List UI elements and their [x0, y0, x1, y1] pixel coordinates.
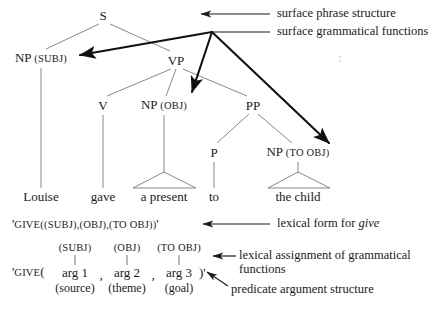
- pas-role-goal: (goal): [165, 282, 194, 294]
- pas-separator-2: ,: [151, 268, 154, 281]
- node-label: S: [99, 8, 106, 23]
- tree-node-np-to-obj: NP (TO OBJ): [266, 145, 329, 159]
- argument-mapping-stems: [75, 255, 179, 265]
- terminal-word-louise: Louise: [23, 190, 58, 203]
- node-label: NP: [266, 144, 282, 159]
- annotation-lexical-form: lexical form for give: [277, 217, 379, 231]
- annotation-lexical-assignment-line2: functions: [239, 261, 286, 275]
- tree-node-p: P: [210, 146, 217, 159]
- annotation-predicate-argument-structure: predicate argument structure: [231, 283, 374, 297]
- pas-predicate-close: )': [199, 266, 206, 279]
- lexical-form-arguments: ((SUBJ),(OBJ),(TO OBJ)): [40, 219, 156, 230]
- pas-role-theme: (theme): [108, 282, 145, 294]
- terminal-word-gave: gave: [91, 190, 116, 203]
- pas-separator-1: ,: [99, 268, 102, 281]
- grammatical-function-arrows: [80, 32, 329, 143]
- tree-node-pp: PP: [246, 99, 260, 112]
- pas-predicate-open: 'GIVE(: [12, 265, 45, 279]
- arrow-to-np-obj: [192, 32, 212, 92]
- lexical-form-line: 'GIVE((SUBJ),(OBJ),(TO OBJ))': [12, 217, 159, 231]
- node-label: NP: [141, 97, 157, 112]
- annotation-surface-grammatical-functions: surface grammatical functions: [277, 25, 428, 39]
- pas-role-source: (source): [55, 282, 94, 294]
- node-grammatical-function: (SUBJ): [34, 53, 67, 64]
- pas-gf-obj: (OBJ): [114, 243, 141, 254]
- node-grammatical-function: (OBJ): [160, 100, 187, 111]
- node-label: P: [210, 145, 217, 160]
- pas-arg-2: arg 2: [114, 266, 140, 279]
- tree-node-np-obj: NP (OBJ): [141, 98, 187, 112]
- colon-mark: :: [338, 50, 342, 66]
- lexical-form-predicate: GIVE: [14, 219, 40, 230]
- terminal-word-to: to: [209, 190, 219, 203]
- tree-node-v: V: [98, 99, 107, 112]
- lfg-diagram-figure: S NP (SUBJ) VP V NP (OBJ) PP P NP (TO OB…: [0, 0, 441, 309]
- pas-gf-to-obj: (TO OBJ): [157, 243, 201, 254]
- tree-node-vp: VP: [168, 54, 185, 67]
- arrow-to-np-subj: [80, 32, 212, 55]
- leader-predicate-argument-structure: [207, 272, 228, 286]
- terminal-word-a-present: a present: [141, 190, 188, 203]
- annotation-lexical-assignment-line1: lexical assignment of grammatical: [239, 248, 411, 262]
- node-label: NP: [15, 50, 31, 65]
- tree-node-np-subj: NP (SUBJ): [15, 51, 67, 65]
- node-grammatical-function: (TO OBJ): [286, 147, 330, 158]
- lexical-form-close-quote: ': [156, 216, 158, 231]
- annotation-lexical-form-lemma: give: [359, 216, 380, 230]
- pas-arg-3: arg 3: [166, 266, 192, 279]
- pas-close-quote: ': [203, 265, 205, 280]
- terminal-word-the-child: the child: [275, 190, 320, 203]
- annotation-lexical-form-text: lexical form for: [277, 216, 359, 230]
- node-label: VP: [168, 53, 185, 68]
- annotation-surface-phrase-structure: surface phrase structure: [277, 7, 396, 21]
- pas-arg-1: arg 1: [62, 266, 88, 279]
- arrow-to-np-to-obj: [212, 32, 329, 143]
- node-label: PP: [246, 98, 260, 113]
- pas-gf-subj: (SUBJ): [59, 243, 92, 254]
- annotation-lexical-assignment: lexical assignment of grammatical functi…: [239, 249, 424, 276]
- node-label: V: [98, 98, 107, 113]
- pas-open-paren: (: [40, 264, 44, 279]
- pas-predicate: GIVE: [14, 267, 40, 278]
- tree-node-s: S: [99, 9, 106, 22]
